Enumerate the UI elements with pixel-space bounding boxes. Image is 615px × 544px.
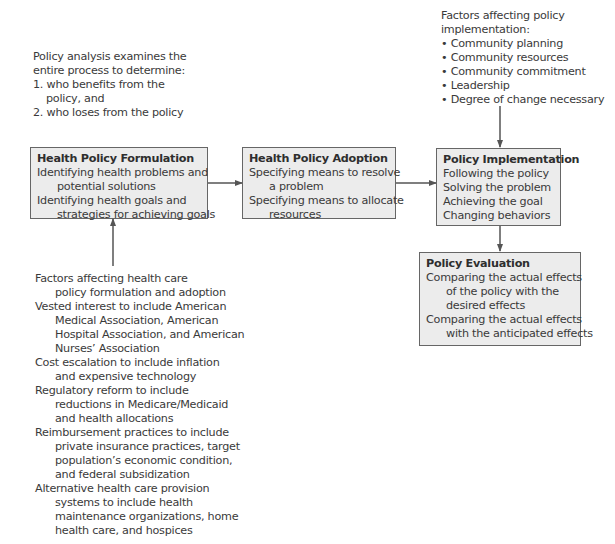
bullet-icon: • [441, 79, 447, 92]
implementation-title: Policy Implementation [443, 153, 554, 167]
factors-line: health care, and hospices [35, 524, 244, 538]
factors-line: Nurses’ Association [35, 342, 244, 356]
factors-line: Cost escalation to include inflation [35, 356, 244, 370]
factor-item: • Degree of change necessary [441, 93, 604, 107]
adoption-title: Health Policy Adoption [249, 152, 389, 166]
factors-line: private insurance practices, target [35, 440, 244, 454]
policy-analysis-note: Policy analysis examines the entire proc… [33, 50, 186, 120]
factors-line: and health allocations [35, 412, 244, 426]
note-line: 1. who benefits from the [33, 78, 186, 92]
evaluation-box: Policy Evaluation Comparing the actual e… [419, 252, 581, 346]
factor-label: Community resources [451, 51, 569, 64]
box-line: with the anticipated effects [426, 327, 574, 341]
box-line: strategies for achieving goals [37, 208, 201, 222]
formulation-title: Health Policy Formulation [37, 152, 201, 166]
box-line: Comparing the actual effects [426, 313, 574, 327]
implementation-factors: Factors affecting policy implementation:… [441, 9, 604, 107]
formulation-factors: Factors affecting health care policy for… [35, 272, 244, 538]
factors-line: Reimbursement practices to include [35, 426, 244, 440]
factor-item: • Leadership [441, 79, 604, 93]
factors-line: Hospital Association, and American [35, 328, 244, 342]
box-line: potential solutions [37, 180, 201, 194]
note-line: Policy analysis examines the [33, 50, 186, 64]
factors-heading: Factors affecting policy [441, 9, 604, 23]
bullet-icon: • [441, 93, 447, 106]
adoption-box: Health Policy Adoption Specifying means … [242, 147, 396, 219]
factor-label: Community commitment [451, 65, 586, 78]
box-line: Comparing the actual effects [426, 271, 574, 285]
evaluation-title: Policy Evaluation [426, 257, 574, 271]
factors-line: maintenance organizations, home [35, 510, 244, 524]
note-line: 2. who loses from the policy [33, 106, 186, 120]
bullet-icon: • [441, 37, 447, 50]
implementation-box: Policy Implementation Following the poli… [436, 148, 561, 226]
factors-heading: implementation: [441, 23, 604, 37]
box-line: Identifying health goals and [37, 194, 201, 208]
box-line: Changing behaviors [443, 209, 554, 223]
box-line: a problem [249, 180, 389, 194]
box-line: of the policy with the [426, 285, 574, 299]
factors-line: systems to include health [35, 496, 244, 510]
factors-line: reductions in Medicare/Medicaid [35, 398, 244, 412]
formulation-box: Health Policy Formulation Identifying he… [30, 147, 208, 219]
box-line: Solving the problem [443, 181, 554, 195]
factors-line: Medical Association, American [35, 314, 244, 328]
factor-item: • Community resources [441, 51, 604, 65]
factors-line: Vested interest to include American [35, 300, 244, 314]
box-line: resources [249, 208, 389, 222]
factors-line: Factors affecting health care [35, 272, 244, 286]
box-line: Specifying means to resolve [249, 166, 389, 180]
box-line: desired effects [426, 299, 574, 313]
factor-label: Leadership [451, 79, 510, 92]
factors-line: Alternative health care provision [35, 482, 244, 496]
bullet-icon: • [441, 65, 447, 78]
factors-line: and federal subsidization [35, 468, 244, 482]
box-line: Following the policy [443, 167, 554, 181]
bullet-icon: • [441, 51, 447, 64]
factor-label: Community planning [451, 37, 563, 50]
factors-line: Regulatory reform to include [35, 384, 244, 398]
factors-line: population’s economic condition, [35, 454, 244, 468]
box-line: Identifying health problems and [37, 166, 201, 180]
note-line: entire process to determine: [33, 64, 186, 78]
box-line: Achieving the goal [443, 195, 554, 209]
factor-item: • Community commitment [441, 65, 604, 79]
factor-label: Degree of change necessary [451, 93, 605, 106]
box-line: Specifying means to allocate [249, 194, 389, 208]
factor-item: • Community planning [441, 37, 604, 51]
factors-line: and expensive technology [35, 370, 244, 384]
factors-line: policy formulation and adoption [35, 286, 244, 300]
note-line: policy, and [33, 92, 186, 106]
